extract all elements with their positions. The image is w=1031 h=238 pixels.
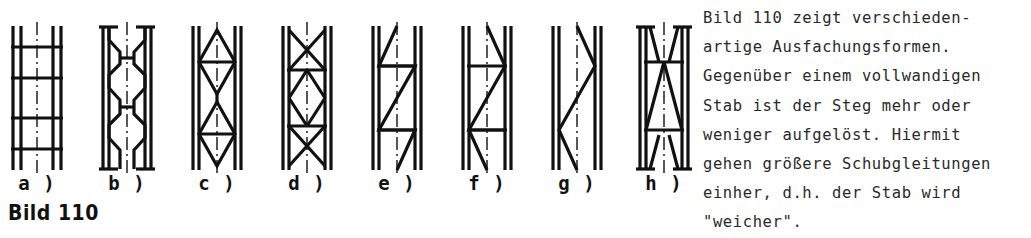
diagram-label-h: h ) (633, 174, 695, 193)
diagram-d-svg (276, 22, 338, 174)
figure-area: a ) b ) (0, 0, 700, 238)
diagram-c-svg (186, 22, 248, 174)
text-line: Gegenüber einem vollwandigen (703, 62, 1031, 91)
diagram-a-battened (6, 22, 68, 174)
diagram-h-svg (633, 22, 695, 174)
diagram-f-mirrored-zigzag (456, 22, 518, 174)
text-line: einher, d.h. der Stab wird (703, 179, 1031, 208)
diagram-label-b: b ) (96, 174, 158, 193)
text-line: gehen größere Schubgleitungen (703, 150, 1031, 179)
diagram-b-perforated-web (96, 22, 158, 174)
explanatory-text-block: Bild 110 zeigt verschieden- artige Ausfa… (703, 4, 1031, 238)
diagram-a-svg (6, 22, 68, 174)
diagram-label-e: e ) (366, 174, 428, 193)
diagram-b-svg (96, 22, 158, 174)
diagram-f-svg (456, 22, 518, 174)
text-line: artige Ausfachungsformen. (703, 33, 1031, 62)
diagram-label-d: d ) (276, 174, 338, 193)
diagram-label-c: c ) (186, 174, 248, 193)
diagram-c-rhombic-lattice (186, 22, 248, 174)
diagram-e-zigzag-with-horizontals (366, 22, 428, 174)
text-line: weniger aufgelöst. Hiermit (703, 121, 1031, 150)
diagram-g-svg (546, 22, 608, 174)
diagram-e-svg (366, 22, 428, 174)
diagram-g-zigzag-only (546, 22, 608, 174)
diagram-label-g: g ) (546, 174, 608, 193)
text-line: Bild 110 zeigt verschieden- (703, 4, 1031, 33)
diagram-label-f: f ) (456, 174, 518, 193)
text-line: Stab ist der Steg mehr oder (703, 92, 1031, 121)
figure-caption: Bild 110 (8, 203, 99, 224)
text-line: "weicher". (703, 208, 1031, 237)
diagram-d-cross-bracing (276, 22, 338, 174)
diagram-h-tapered-web-plates (633, 22, 695, 174)
diagram-label-a: a ) (6, 174, 68, 193)
